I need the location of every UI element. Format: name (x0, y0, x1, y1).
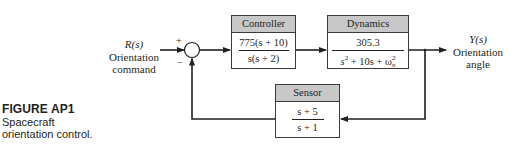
controller-denominator: s(s + 2) (232, 52, 295, 65)
minus-sign: − (177, 58, 183, 68)
dynamics-transfer-function: 305.3 s2 + 10s + ω2n (328, 33, 408, 69)
summing-junction-icon (185, 43, 200, 58)
controller-block: Controller 775(s + 10) s(s + 2) (231, 15, 296, 69)
figure-label: FIGURE AP1 (2, 103, 93, 116)
caption-line1: Spacecraft (2, 116, 93, 128)
input-label: R(s) Orientation command (104, 38, 164, 76)
dynamics-denominator: s2 + 10s + ω2n (328, 52, 408, 69)
sensor-block: Sensor s + 5 s + 1 (275, 84, 340, 138)
output-symbol: Y(s) (448, 33, 508, 46)
caption-line2: orientation control. (2, 128, 93, 140)
controller-title: Controller (232, 16, 295, 33)
input-name-line2: command (104, 63, 164, 76)
fraction-bar (239, 50, 289, 51)
sensor-denominator: s + 1 (276, 121, 339, 134)
plus-sign: + (176, 36, 182, 46)
controller-transfer-function: 775(s + 10) s(s + 2) (232, 33, 295, 65)
dynamics-block: Dynamics 305.3 s2 + 10s + ω2n (327, 15, 409, 69)
dynamics-title: Dynamics (328, 16, 408, 33)
input-name-line1: Orientation (104, 51, 164, 64)
figure-caption: FIGURE AP1 Spacecraft orientation contro… (2, 103, 93, 140)
controller-numerator: 775(s + 10) (232, 33, 295, 49)
dynamics-numerator: 305.3 (328, 33, 408, 49)
output-name-line2: angle (448, 58, 508, 71)
output-name-line1: Orientation (448, 46, 508, 59)
fraction-bar (292, 119, 324, 120)
sensor-title: Sensor (276, 85, 339, 102)
fraction-bar (332, 50, 404, 51)
output-label: Y(s) Orientation angle (448, 33, 508, 71)
sensor-transfer-function: s + 5 s + 1 (276, 102, 339, 134)
sensor-numerator: s + 5 (276, 102, 339, 118)
input-symbol: R(s) (104, 38, 164, 51)
